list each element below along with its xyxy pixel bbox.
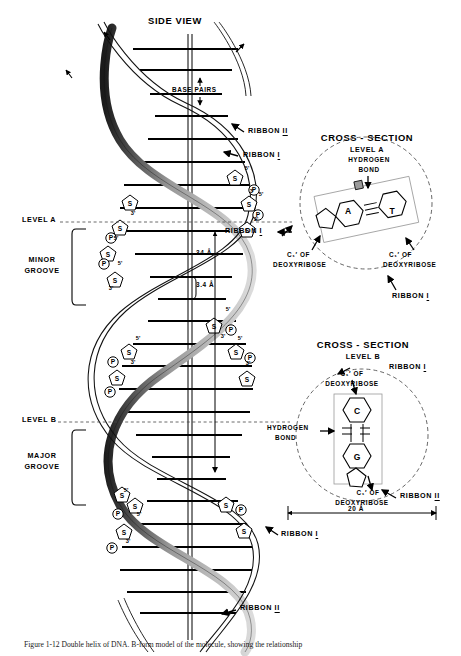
svg-text:3': 3' [131, 359, 136, 365]
svg-text:5': 5' [226, 306, 231, 312]
svg-text:5': 5' [245, 165, 250, 171]
c1-right-a-label-line1: C₁′ OF [389, 251, 412, 258]
dna-diagram-svg: A T C G SSS PP SSS PP SSP SSS S PP SS PP… [0, 0, 461, 656]
c1-right-a-label-line2: DEOXYRIBOSE [383, 261, 436, 268]
ribbon-two-bottom-label: RIBBON [240, 603, 272, 612]
svg-text:3': 3' [246, 360, 251, 366]
cross-b-ribbon-one-numeral: I [424, 362, 427, 371]
c1-left-a-label-line1: C₁′ OF [287, 251, 310, 258]
cross-a-ribbon-one-numeral: I [427, 291, 430, 300]
cross-section-b-title-line1: CROSS - SECTION [292, 340, 434, 351]
base-letters: A T C G [345, 206, 395, 462]
cross-b-ribbon-one-label: RIBBON [389, 362, 421, 371]
figure-canvas: A T C G SSS PP SSS PP SSP SSS S PP SS PP… [0, 0, 461, 656]
ribbon-one-bottom-leader [266, 527, 278, 535]
c1-bottom-b-leader [368, 476, 372, 490]
level-b-label: LEVEL B [22, 416, 56, 424]
svg-text:S: S [234, 349, 239, 356]
pitch-measure-label: 34 Å [196, 249, 212, 256]
c1-bottom-b-label-line1: C₁′ OF [332, 489, 404, 496]
svg-text:S: S [128, 200, 133, 207]
backbone-units-left [99, 195, 143, 553]
c1-right-a-leader [406, 238, 414, 250]
rise-measure-label: 3.4 Å [196, 281, 214, 288]
cross-section-a-title-line1: CROSS - SECTION [296, 133, 438, 144]
cross-b-ribbon-two-numeral: II [435, 491, 440, 500]
svg-text:P: P [116, 510, 121, 517]
minor-groove-bracket [72, 229, 86, 305]
svg-text:5': 5' [118, 260, 123, 266]
svg-text:S: S [122, 529, 127, 536]
ribbon-one-mid-label: RIBBON [225, 226, 257, 235]
ribbon-two-top-label: RIBBON [248, 126, 280, 135]
base-letter-g: G [354, 452, 361, 462]
svg-text:3': 3' [131, 210, 136, 216]
svg-text:S: S [115, 375, 120, 382]
svg-text:S: S [113, 277, 118, 284]
svg-text:P: P [229, 326, 234, 333]
major-groove-label-line1: MAJOR [14, 452, 70, 460]
svg-text:S: S [224, 502, 229, 509]
svg-text:P: P [239, 506, 244, 513]
rise-measure-bracket [182, 277, 196, 299]
hydrogen-bond-a-label-line1: HYDROGEN [334, 156, 404, 163]
ribbon-one-top-numeral: I [278, 150, 281, 159]
svg-text:3': 3' [254, 216, 259, 222]
ribbon-one-bottom-label: RIBBON [281, 529, 313, 538]
ribbon-one-a-leader [388, 276, 396, 290]
svg-text:P: P [111, 358, 116, 365]
ribbon-one-mid-numeral: I [260, 226, 263, 235]
cross-a-ribbon-one-label: RIBBON [392, 291, 424, 300]
c1-top-b-label-line1: C₁′ OF [316, 370, 388, 377]
svg-text:S: S [212, 323, 217, 330]
svg-text:P: P [102, 260, 107, 267]
helix-top-flourish [214, 22, 251, 96]
hydrogen-bond-b-label-line1: HYDROGEN [267, 424, 309, 431]
svg-text:3': 3' [250, 188, 255, 194]
svg-text:S: S [120, 492, 125, 499]
svg-text:5': 5' [114, 235, 119, 241]
ribbon-one-top-label: RIBBON [243, 150, 275, 159]
ribbon-two-top-numeral: II [283, 126, 288, 135]
c1-left-a-label-line2: DEOXYRIBOSE [273, 261, 326, 268]
hydrogen-bond-a-label-line2: BOND [334, 166, 404, 173]
ribbon-one-top-leader [224, 152, 238, 156]
svg-text:P: P [110, 544, 115, 551]
svg-text:S: S [245, 376, 250, 383]
hydrogen-bond-b-label-line2: BOND [275, 434, 296, 441]
diameter-measure-label: 20 Å [348, 505, 364, 512]
level-a-label: LEVEL A [22, 216, 56, 224]
svg-text:5': 5' [238, 335, 243, 341]
svg-text:S: S [133, 503, 138, 510]
major-groove-label-line2: GROOVE [14, 463, 70, 471]
svg-text:S: S [106, 251, 111, 258]
ribbon-two-bottom-numeral: II [275, 603, 280, 612]
svg-text:S: S [247, 201, 252, 208]
svg-text:5': 5' [124, 487, 129, 493]
figure-caption: Figure 1-12 Double helix of DNA. B-form … [24, 640, 444, 650]
ribbon-two-top-leader [232, 124, 244, 132]
helix-axis [188, 34, 192, 640]
svg-text:S: S [127, 349, 132, 356]
base-letter-c: C [354, 406, 360, 416]
cross-a-ribbon-two-leader [282, 226, 292, 236]
ribbon-one-bottom-numeral: I [316, 529, 319, 538]
ribbon-one-band [104, 28, 252, 652]
minor-groove-label-line1: MINOR [14, 256, 70, 264]
base-pairs-label: BASE PAIRS [172, 86, 217, 93]
base-letter-a: A [345, 206, 351, 216]
svg-text:S: S [242, 528, 247, 535]
cross-b-ribbon-two-label: RIBBON [400, 491, 432, 500]
svg-text:3': 3' [126, 538, 131, 544]
cross-section-a-title-line2: LEVEL A [296, 146, 438, 154]
svg-text:3': 3' [109, 285, 114, 291]
strand-direction-arrows [66, 32, 244, 78]
base-letter-t: T [389, 206, 395, 216]
minor-groove-label-line2: GROOVE [14, 267, 70, 275]
side-view-title: SIDE VIEW [128, 16, 222, 27]
svg-text:S: S [118, 225, 123, 232]
svg-text:5': 5' [137, 511, 142, 517]
cross-section-b-title-line2: LEVEL B [292, 353, 434, 361]
svg-text:P: P [108, 388, 113, 395]
svg-text:S: S [233, 175, 238, 182]
